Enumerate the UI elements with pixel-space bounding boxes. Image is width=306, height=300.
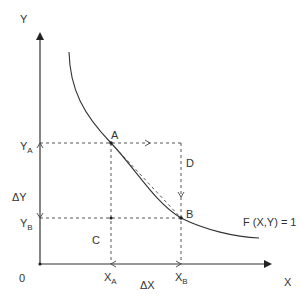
point-a (109, 141, 113, 145)
point-b (179, 216, 183, 220)
x-a-label: XA (104, 271, 117, 286)
point-d-label: D (186, 157, 194, 169)
dashed-guides (40, 143, 181, 264)
y-b-label: YB (20, 217, 33, 232)
point-a-label: A (111, 129, 119, 141)
origin-label: 0 (19, 272, 25, 284)
curve-label: F (X,Y) = 1 (243, 216, 297, 228)
origin-point (38, 262, 41, 265)
indifference-curve-diagram: Y X 0 A B C D YA YB ΔY XA XB ΔX F (X,Y) … (0, 0, 306, 300)
x-b-label: XB (175, 271, 188, 286)
y-axis-label: Y (20, 13, 28, 25)
delta-y-label: ΔY (12, 191, 27, 203)
x-axis-label: X (284, 276, 292, 288)
curve-f-xy (69, 52, 259, 238)
y-a-label: YA (20, 140, 33, 155)
point-b-label: B (186, 208, 193, 220)
point-c-label: C (92, 234, 100, 246)
point-c-marker (109, 216, 112, 219)
delta-x-label: ΔX (140, 279, 155, 291)
